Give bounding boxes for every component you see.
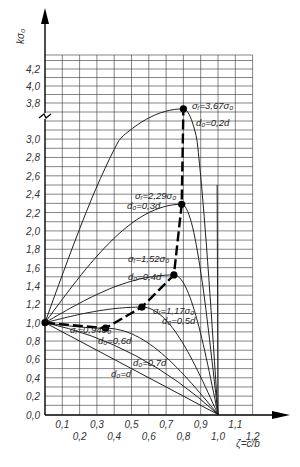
y-tick-label: 4,0 [26, 81, 40, 92]
y-tick-label: 3,0 [26, 134, 40, 145]
y-tick-label: 0,0 [26, 410, 40, 421]
y-tick-label: 4,2 [26, 64, 40, 75]
y-tick-label: 0,4 [26, 373, 40, 384]
label-d-10: d₀=d [111, 368, 132, 379]
y-tick-label: 2,4 [25, 189, 40, 200]
x-tick-label: 0,1 [55, 419, 69, 430]
x-tick-label: 0,8 [176, 431, 190, 442]
label-d-04: d₀=0,4d [128, 271, 162, 282]
x-tick-label: 0,4 [107, 431, 121, 442]
y-tick-label: 2,0 [25, 226, 40, 237]
label-d-03: d₀=0,3d [127, 200, 161, 211]
x-axis-label: ζ=c/b [236, 438, 260, 450]
x-tick-label: 0,9 [194, 419, 208, 430]
y-tick-label: 2,2 [25, 208, 40, 219]
x-axis-arrow-icon [272, 411, 290, 419]
y-axis-label: kσ₀ [15, 29, 26, 44]
label-sigma-02: σᵣ=3,67σ₀ [192, 100, 233, 111]
label-d-02: d₀=0,2d [196, 117, 230, 128]
x-tick-label: 0,6 [142, 431, 156, 442]
y-tick-label: 2,6 [25, 171, 40, 182]
label-d-07: d₀=0,7d [133, 357, 167, 368]
x-tick-label: 1,0 [211, 431, 225, 442]
y-tick-label: 1,2 [26, 299, 40, 310]
label-d-05: d₀=0,5d [162, 315, 196, 326]
y-tick-label: 0,8 [26, 336, 40, 347]
y-tick-label: 2,8 [25, 152, 40, 163]
y-tick-label: 1,0 [26, 318, 40, 329]
label-sigma-06: σᵣ=0,94σ₀ [70, 324, 111, 335]
y-tick-label: 1,6 [26, 263, 40, 274]
y-tick-label: 0,6 [26, 354, 40, 365]
y-tick-label: 0,2 [26, 391, 40, 402]
peak-marker [180, 105, 187, 112]
peak-marker [170, 271, 177, 278]
y-axis-arrow-icon [41, 8, 49, 24]
x-tick-label: 0,5 [125, 419, 139, 430]
y-tick-label: 3,8 [26, 98, 40, 109]
stress-concentration-chart: 0,00,20,40,60,81,01,21,41,61,82,02,22,42… [0, 0, 300, 467]
x-tick-label: 0,3 [90, 419, 104, 430]
label-sigma-04: σᵣ=1,52σ₀ [128, 253, 169, 264]
y-tick-label: 1,8 [26, 244, 40, 255]
peak-marker [178, 201, 185, 208]
x-tick-label: 0,7 [159, 419, 173, 430]
peak-marker [138, 303, 145, 310]
x-tick-label: 0,2 [73, 431, 87, 442]
y-tick-label: 1,4 [26, 281, 40, 292]
x-tick-label: 1,1 [228, 419, 242, 430]
label-d-06: d₀=0,6d [98, 335, 132, 346]
